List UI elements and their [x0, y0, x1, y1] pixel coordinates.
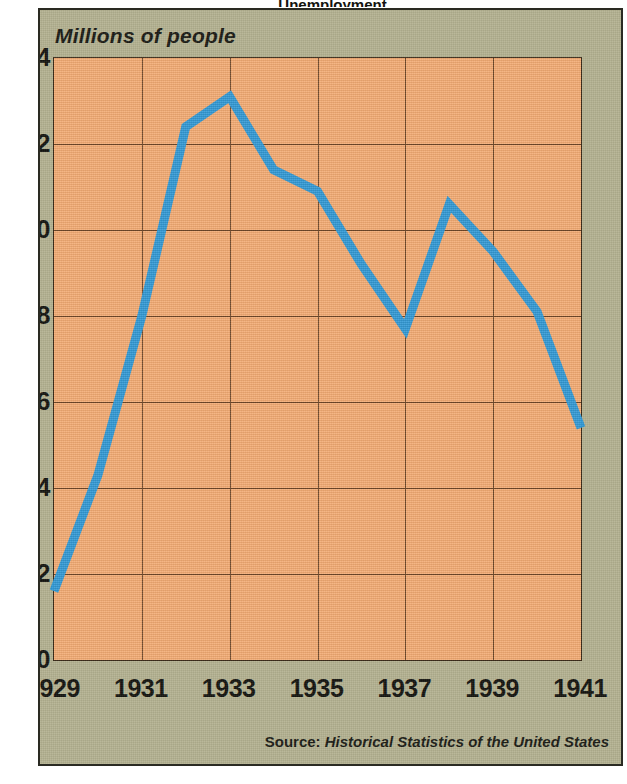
y-axis-title: Millions of people — [55, 24, 236, 48]
y-tick-label-2: 2 — [38, 559, 50, 588]
x-tick-label-1929: 1929 — [38, 674, 80, 703]
y-tick-label-4: 4 — [38, 473, 50, 502]
source-title: Historical Statistics of the United Stat… — [325, 733, 609, 750]
x-tick-label-1937: 1937 — [378, 674, 432, 703]
x-tick-label-1933: 1933 — [202, 674, 256, 703]
chart-figure: Unemployment Millions of people 02468101… — [0, 0, 627, 784]
x-tick-label-1941: 1941 — [553, 674, 607, 703]
data-line-series — [54, 58, 581, 660]
series-line-unemployment — [54, 97, 581, 592]
source-note: Source: Historical Statistics of the Uni… — [265, 733, 609, 750]
source-label: Source: — [265, 733, 321, 750]
y-tick-label-0: 0 — [38, 645, 50, 674]
y-tick-label-14: 14 — [38, 43, 50, 72]
x-tick-label-1935: 1935 — [290, 674, 344, 703]
cropped-title: Unemployment — [38, 0, 627, 7]
x-axis-ticks: 1929193119331935193719391941 — [53, 674, 580, 708]
x-tick-label-1931: 1931 — [114, 674, 168, 703]
y-tick-label-8: 8 — [38, 301, 50, 330]
y-axis-ticks: 02468101214 — [40, 57, 50, 659]
plot-area — [53, 57, 582, 661]
chart-panel: Millions of people 02468101214 192919311… — [38, 8, 623, 766]
y-tick-label-6: 6 — [38, 387, 50, 416]
y-tick-label-12: 12 — [38, 129, 50, 158]
y-tick-label-10: 10 — [38, 215, 50, 244]
x-tick-label-1939: 1939 — [465, 674, 519, 703]
